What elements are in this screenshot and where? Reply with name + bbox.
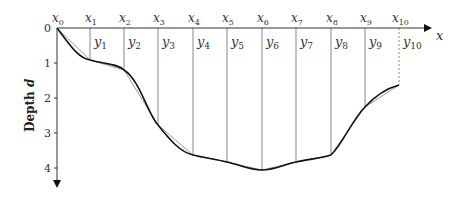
svg-text:y4: y4 bbox=[196, 34, 210, 51]
depth-axis-title: Depth d bbox=[23, 78, 37, 132]
svg-text:y2: y2 bbox=[127, 34, 141, 51]
svg-text:x1: x1 bbox=[85, 11, 97, 27]
svg-text:y10: y10 bbox=[402, 34, 422, 51]
svg-text:x5: x5 bbox=[222, 11, 234, 27]
svg-text:y3: y3 bbox=[161, 34, 175, 51]
svg-text:y7: y7 bbox=[299, 34, 313, 51]
svg-text:x10: x10 bbox=[392, 11, 409, 27]
svg-text:x4: x4 bbox=[188, 11, 200, 27]
svg-text:y8: y8 bbox=[334, 34, 348, 51]
svg-text:x8: x8 bbox=[326, 11, 338, 27]
depth-tick-0: 0 bbox=[44, 22, 51, 35]
depth-profile-diagram: x 0 1 2 3 4 Depth d x0 x1 x2 x3 x4 x5 x6… bbox=[0, 0, 454, 199]
svg-text:y1: y1 bbox=[93, 34, 107, 51]
svg-text:x7: x7 bbox=[291, 11, 303, 27]
svg-text:x0: x0 bbox=[52, 11, 64, 27]
svg-text:x3: x3 bbox=[153, 11, 165, 27]
depth-tick-1: 1 bbox=[44, 57, 51, 70]
svg-text:y5: y5 bbox=[230, 34, 244, 51]
svg-text:x9: x9 bbox=[360, 11, 372, 27]
svg-text:x6: x6 bbox=[257, 11, 269, 27]
svg-text:y6: y6 bbox=[265, 34, 279, 51]
y-depth-labels: y1 y2 y3 y4 y5 y6 y7 y8 y9 y10 bbox=[93, 34, 422, 51]
x-station-labels: x0 x1 x2 x3 x4 x5 x6 x7 x8 x9 x10 bbox=[52, 11, 409, 27]
depth-tick-2: 2 bbox=[44, 92, 51, 105]
svg-text:y9: y9 bbox=[368, 34, 382, 51]
svg-text:x2: x2 bbox=[119, 11, 131, 27]
depth-tick-4: 4 bbox=[44, 162, 51, 175]
x-axis-label: x bbox=[436, 28, 444, 43]
depth-tick-3: 3 bbox=[44, 127, 51, 140]
